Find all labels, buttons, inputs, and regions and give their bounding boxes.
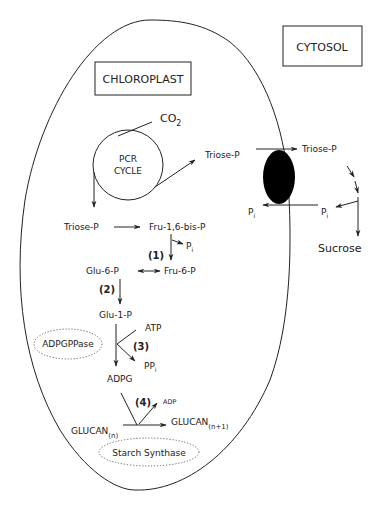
cytosol-label-box: CYTOSOL	[283, 26, 362, 66]
step-4-label: (4)	[135, 397, 151, 408]
pcr-cycle-label-line2: CYCLE	[114, 166, 142, 176]
triose-p-export-label: Triose-P	[204, 150, 240, 160]
step-2-label: (2)	[99, 284, 115, 295]
adp-label: ADP	[163, 398, 176, 406]
pi-cytosol-label: Pi	[321, 207, 328, 219]
pcr-cycle: PCR CYCLE	[93, 130, 163, 200]
adpgppase-enzyme: ADPGPPase	[34, 329, 102, 359]
step-1-label: (1)	[148, 250, 164, 261]
glu1p-label: Glu-1-P	[99, 310, 132, 320]
cytosol-pi-branch-arrow	[336, 201, 358, 207]
triose-p-internal-label: Triose-P	[63, 222, 99, 232]
adpgppase-label: ADPGPPase	[42, 339, 94, 349]
glucan-n1-label: GLUCAN(n+1)	[171, 417, 229, 431]
phosphate-translocator	[263, 150, 295, 204]
cytosol-step-arrow-2	[355, 181, 358, 193]
starch-synthase-enzyme: Starch Synthase	[99, 438, 199, 466]
cytosol-label: CYTOSOL	[296, 41, 348, 54]
step1-pi-branch	[172, 240, 183, 244]
glucan-n-label: GLUCAN(n)	[71, 426, 118, 440]
sucrose-label: Sucrose	[318, 242, 362, 255]
starch-synthase-label: Starch Synthase	[112, 448, 186, 458]
adpg-label: ADPG	[107, 374, 133, 384]
pcr-cycle-label-line1: PCR	[119, 154, 137, 164]
chloroplast-label-box: CHLOROPLAST	[95, 62, 191, 95]
co2-label: CO2	[160, 112, 181, 128]
fru6p-label: Fru-6-P	[164, 266, 196, 276]
step-3-label: (3)	[133, 341, 149, 352]
triose-p-cytosol-label: Triose-P	[301, 144, 337, 154]
atp-label: ATP	[145, 323, 162, 333]
fru-bisp-label: Fru-1,6-bis-P	[149, 222, 206, 232]
ppi-label: PPi	[144, 361, 157, 373]
cycle-to-triose-arrow	[155, 160, 195, 187]
pi-chloroplast-label: Pi	[248, 207, 255, 219]
cytosol-step-arrow-1	[347, 166, 354, 177]
chloroplast-label: CHLOROPLAST	[103, 73, 184, 86]
glu6p-label: Glu-6-P	[86, 266, 119, 276]
pi-1-label: Pi	[186, 241, 193, 253]
chloroplast-starch-pathway-diagram: CHLOROPLAST CYTOSOL PCR CYCLE CO2 Triose…	[0, 0, 381, 508]
co2-input-line	[118, 122, 152, 136]
